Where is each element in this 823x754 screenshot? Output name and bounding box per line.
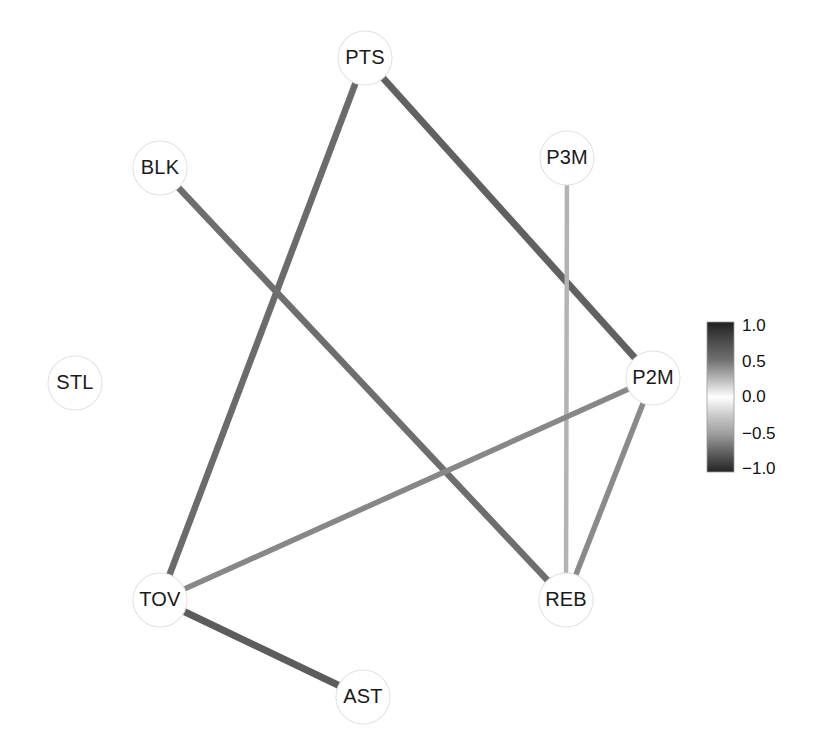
graph-node-blk[interactable]: BLK (133, 141, 187, 195)
graph-svg-canvas: PTSBLKP3MSTLP2MREBTOVAST 1.00.50.0−0.5−1… (0, 0, 823, 754)
graph-node-stl[interactable]: STL (48, 356, 102, 410)
network-graph-figure: PTSBLKP3MSTLP2MREBTOVAST 1.00.50.0−0.5−1… (0, 0, 823, 754)
node-label-blk: BLK (141, 156, 180, 178)
node-label-stl: STL (56, 371, 93, 393)
colorbar-gradient-bar (707, 322, 734, 472)
graph-node-p2m[interactable]: P2M (626, 351, 680, 405)
graph-node-p3m[interactable]: P3M (540, 131, 594, 185)
colorbar-tick-label-0: 1.0 (742, 316, 766, 335)
graph-edge-pts-p2m (365, 58, 653, 378)
colorbar-tick-label-1: 0.5 (742, 352, 766, 371)
node-label-tov: TOV (139, 588, 181, 610)
colorbar-layer: 1.00.50.0−0.5−1.0 (707, 316, 776, 478)
graph-node-tov[interactable]: TOV (133, 573, 187, 627)
node-label-pts: PTS (345, 46, 385, 68)
nodes-layer: PTSBLKP3MSTLP2MREBTOVAST (48, 31, 680, 724)
colorbar-tick-label-3: −0.5 (742, 424, 776, 443)
graph-edge-p3m-reb (566, 158, 567, 600)
graph-edge-tov-ast (160, 600, 363, 697)
node-label-p2m: P2M (632, 366, 674, 388)
node-label-p3m: P3M (546, 146, 588, 168)
graph-node-pts[interactable]: PTS (338, 31, 392, 85)
graph-node-reb[interactable]: REB (539, 573, 593, 627)
colorbar-tick-label-2: 0.0 (742, 387, 766, 406)
graph-node-ast[interactable]: AST (336, 670, 390, 724)
graph-edge-blk-reb (160, 168, 566, 600)
node-label-ast: AST (343, 685, 383, 707)
colorbar-tick-label-4: −1.0 (742, 459, 776, 478)
node-label-reb: REB (545, 588, 587, 610)
